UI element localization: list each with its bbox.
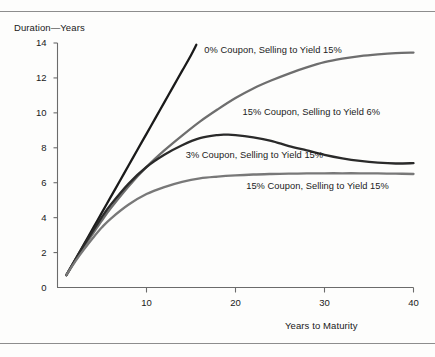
y-tick-label-14: 14	[27, 37, 47, 48]
y-tick-label-8: 8	[27, 142, 47, 153]
y-tick-label-4: 4	[27, 212, 47, 223]
y-tick-label-6: 6	[27, 177, 47, 188]
series-label-1: 15% Coupon, Selling to Yield 6%	[243, 107, 380, 117]
y-tick-label-2: 2	[27, 247, 47, 258]
series-label-2: 3% Coupon, Selling to Yield 15%	[186, 150, 323, 160]
x-tick-label-40: 40	[402, 297, 426, 308]
series-curves	[66, 45, 413, 276]
y-tick-label-10: 10	[27, 107, 47, 118]
axis-lines	[57, 43, 414, 288]
series-curve-1	[66, 53, 413, 275]
series-label-3: 15% Coupon, Selling to Yield 15%	[246, 181, 389, 191]
chart-figure: Duration—Years Years to Maturity 1412108…	[0, 0, 435, 357]
y-axis-title: Duration—Years	[14, 22, 85, 33]
x-axis-title: Years to Maturity	[285, 320, 358, 331]
y-axis-ticks	[54, 43, 58, 253]
series-label-0: 0% Coupon, Selling to Yield 15%	[204, 45, 341, 55]
x-tick-label-30: 30	[313, 297, 337, 308]
x-axis-ticks	[147, 288, 414, 293]
x-tick-label-20: 20	[224, 297, 248, 308]
y-tick-label-12: 12	[27, 72, 47, 83]
y-tick-label-0: 0	[27, 282, 47, 293]
x-tick-label-10: 10	[135, 297, 159, 308]
